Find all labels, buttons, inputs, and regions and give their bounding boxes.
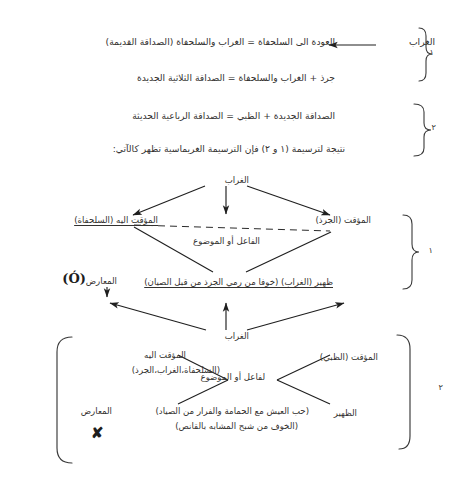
diagram-two-support-label: الظهير: [334, 408, 357, 419]
diagram-one-axis-label: الفاعل أو الموضوع: [193, 236, 260, 247]
diagram-one-bracket: [403, 215, 419, 289]
diagram-one-bracket-label: ١: [429, 245, 433, 255]
equation-bracket-two: [414, 104, 431, 156]
equation-bracket-two-label: ٢: [432, 122, 436, 132]
diagram-one-opposer-symbol: (Ó): [62, 271, 86, 286]
diagram-two-support-detail-1: (حب العيش مع الحمامة والفرار من الصياد): [156, 406, 310, 417]
equation-line-4: نتيجة لترسيمة (١ و ٢) فإن الترسيمة الغري…: [113, 143, 345, 155]
diagram-one-bottom-statement: ظهير (الغراب) (خوفا من رمي الجرذ من قبل …: [144, 277, 333, 288]
diagram-one-left-node: المؤقت اليه (السلحفاة): [74, 215, 158, 226]
diagram-one-opposer-label: المعارض: [86, 276, 117, 287]
diagram-two-bracket-right: [397, 335, 410, 449]
equation-line-3: الصداقة الجديدة + الظبي = الصداقة الرباع…: [132, 110, 335, 122]
diagram-one-dashed-axis: [134, 225, 330, 231]
diagram-two-right-node: المؤقت (الظبي): [320, 352, 378, 363]
diagram-two-support-detail-2: (الخوف من شبح المشابه بالقانص): [175, 421, 298, 432]
diagram-one-right-node: المؤقت (الجرذ): [315, 215, 371, 226]
diagram-one-converging-lines: [134, 227, 331, 272]
diagram-page: الغراب العودة الى السلحفاة = الغراب والس…: [0, 0, 453, 490]
diagram-two-bracket-left: [57, 337, 72, 463]
diagram-two-axis-label: لفاعل أو الموضوع: [201, 372, 266, 383]
equation-line-1: العودة الى السلحفاة = الغراب والسلحفاة (…: [106, 36, 335, 48]
diagram-one-arrows: [133, 186, 330, 215]
diagram-two-top-node: الغراب: [225, 331, 249, 342]
equation-line-2: جرذ + الغراب والسلحفاة = الصداقة الثلاثي…: [137, 72, 335, 84]
diagram-two-arrows: [110, 303, 344, 330]
diagram-two-opposer-symbol: ✘: [91, 424, 104, 442]
diagram-two-opposer-label: المعارض: [81, 406, 112, 417]
diagram-two-left-node-title: المؤقت اليه: [144, 350, 186, 361]
diagram-two-bracket-label: ٢: [439, 382, 443, 392]
equation-source-label: الغراب: [409, 36, 435, 48]
equation-bracket-one-label: ١: [430, 47, 434, 57]
diagram-one-top-node: الغراب: [225, 175, 249, 186]
